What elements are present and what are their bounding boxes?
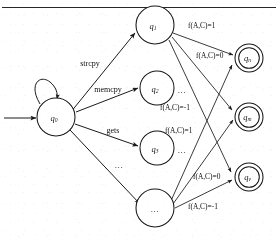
state-qm-accepting[interactable]: qm: [235, 103, 263, 131]
automaton-diagram: q0 q1 q2 ... q3 ... .: [0, 0, 278, 238]
q2-side-dots: ...: [178, 85, 187, 95]
state-qn-subscript: n: [248, 58, 251, 64]
edge-label-qdots-qv: f(A,C)=-1: [188, 202, 218, 211]
transition-label-strcpy: strcpy: [80, 59, 100, 68]
figure-canvas: q0 q1 q2 ... q3 ... .: [0, 0, 278, 238]
state-qdots-label: ...: [151, 204, 160, 214]
state-q0-subscript: 0: [55, 117, 58, 123]
state-q3[interactable]: q3: [140, 131, 174, 165]
state-qm-subscript: m: [248, 117, 252, 123]
state-q3-subscript: 3: [155, 148, 159, 154]
state-q1[interactable]: q1: [136, 6, 174, 44]
q3-side-dots: ...: [178, 145, 187, 155]
transition-label-gets: gets: [107, 126, 120, 135]
state-qn-accepting[interactable]: qn: [235, 44, 263, 72]
edge-label-q1-qn: f(A,C)=1: [188, 21, 216, 30]
edge-label-q1-qv: f(A,C)=-1: [160, 103, 190, 112]
transition-label-memcpy: memcpy: [94, 85, 122, 94]
state-q0[interactable]: q0: [37, 98, 75, 136]
state-q2-subscript: 2: [156, 88, 159, 94]
edge-q0-q1: [73, 33, 136, 110]
edge-label-qdots-qm: f(A,C)=0: [193, 172, 221, 181]
state-qv-accepting[interactable]: qv: [235, 163, 263, 191]
state-q1-subscript: 1: [154, 25, 157, 31]
state-qdots[interactable]: ...: [136, 189, 174, 227]
edge-q0-qdots: [70, 130, 140, 204]
state-q2[interactable]: q2: [140, 71, 174, 105]
transition-label-dots: ...: [115, 160, 124, 170]
edge-label-q1-qm: f(A,C)=0: [196, 51, 224, 60]
edge-q1-qm: [172, 37, 232, 110]
edge-label-qdots-qn: f(A,C)=1: [165, 126, 193, 135]
